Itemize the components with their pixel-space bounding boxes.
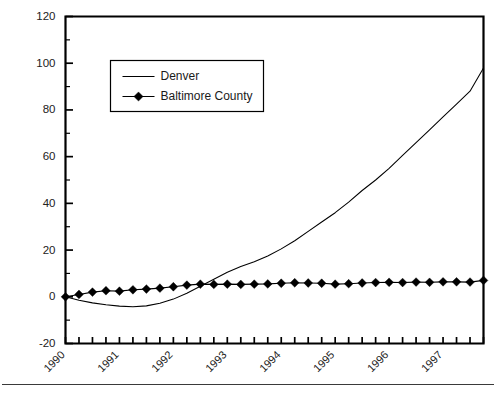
line-chart-canvas: -20020406080100120 199019911992199319941… (0, 0, 499, 398)
series-marker-baltimore-county (88, 288, 97, 297)
series-marker-baltimore-county (479, 276, 488, 285)
x-tick-label-year: 1991 (95, 348, 121, 374)
legend-label-denver: Denver (161, 69, 200, 83)
series-marker-baltimore-county (385, 278, 394, 287)
y-tick-label: 80 (43, 103, 56, 115)
series-marker-baltimore-county (61, 292, 70, 301)
series-line-baltimore-county (66, 280, 484, 296)
y-tick-label: 20 (43, 244, 56, 256)
y-tick-label: 40 (43, 197, 56, 209)
series-marker-baltimore-county (412, 278, 421, 287)
series-marker-baltimore-county (263, 280, 272, 289)
series-marker-baltimore-county (425, 278, 434, 287)
series-marker-baltimore-county (196, 280, 205, 289)
x-tick-label-year: 1992 (149, 348, 175, 374)
series-marker-baltimore-county (439, 277, 448, 286)
series-marker-baltimore-county (182, 281, 191, 290)
y-axis-tick-labels: -20020406080100120 (36, 10, 55, 349)
x-tick-label-year: 1990 (41, 348, 67, 374)
footer-divider (2, 384, 494, 385)
series-marker-baltimore-county (304, 279, 313, 288)
series-marker-baltimore-county (102, 286, 111, 295)
series-marker-baltimore-county (371, 278, 380, 287)
series-marker-baltimore-county (129, 285, 138, 294)
series-marker-baltimore-county (466, 278, 475, 287)
series-marker-baltimore-county (223, 280, 232, 289)
series-marker-baltimore-county (344, 279, 353, 288)
legend-box (111, 61, 264, 112)
series-marker-baltimore-county (250, 280, 259, 289)
y-tick-label: 120 (36, 10, 55, 22)
y-tick-label: 60 (43, 150, 56, 162)
x-tick-label-year: 1995 (311, 348, 337, 374)
series-marker-baltimore-county (358, 279, 367, 288)
series-marker-baltimore-county (169, 282, 178, 291)
series-marker-baltimore-county (317, 279, 326, 288)
series-marker-baltimore-county (452, 277, 461, 286)
y-tick-label: -20 (39, 337, 56, 349)
x-tick-label-year: 1994 (257, 348, 283, 374)
series-marker-baltimore-county (290, 278, 299, 287)
series-marker-baltimore-county (277, 279, 286, 288)
x-tick-label-year: 1993 (203, 348, 229, 374)
series-marker-baltimore-county (155, 284, 164, 293)
x-tick-label-year: 1997 (419, 348, 445, 374)
series-marker-baltimore-county (331, 280, 340, 289)
series-marker-baltimore-county (236, 280, 245, 289)
x-tick-label-year: 1996 (365, 348, 391, 374)
series-marker-baltimore-county (398, 278, 407, 287)
y-tick-label: 0 (49, 290, 55, 302)
chart-figure: -20020406080100120 199019911992199319941… (0, 0, 499, 398)
series-marker-baltimore-county (142, 285, 151, 294)
chart-legend: DenverBaltimore County (111, 61, 264, 112)
legend-label-baltimore-county: Baltimore County (161, 89, 253, 103)
x-axis-tick-labels: 19901991199219931994199519961997 (41, 348, 444, 374)
series-marker-baltimore-county (115, 287, 124, 296)
series-marker-baltimore-county (75, 290, 84, 299)
y-tick-label: 100 (36, 57, 55, 69)
